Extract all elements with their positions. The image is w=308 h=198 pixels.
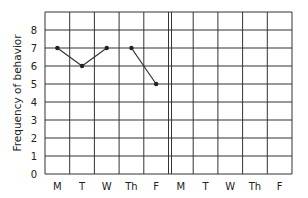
- x-tick-label: T: [78, 181, 86, 192]
- y-tick-label: 5: [31, 79, 37, 90]
- x-axis-ticks: MTWThFMTWThF: [53, 181, 283, 192]
- x-tick-label: M: [53, 181, 62, 192]
- y-tick-label: 7: [31, 43, 37, 54]
- x-tick-label: M: [177, 181, 186, 192]
- series-line: [57, 48, 106, 66]
- chart-grid: [45, 12, 292, 174]
- y-tick-label: 2: [31, 133, 37, 144]
- data-point: [80, 64, 84, 68]
- x-tick-label: Th: [124, 181, 137, 192]
- line-chart: 012345678 MTWThFMTWThF Frequency of beha…: [0, 0, 308, 198]
- x-tick-label: F: [277, 181, 283, 192]
- y-axis-ticks: 012345678: [31, 25, 37, 180]
- y-tick-label: 1: [31, 151, 37, 162]
- y-tick-label: 3: [31, 115, 37, 126]
- y-tick-label: 4: [31, 97, 37, 108]
- y-tick-label: 0: [31, 169, 37, 180]
- y-tick-label: 8: [31, 25, 37, 36]
- y-tick-label: 6: [31, 61, 37, 72]
- data-point: [154, 82, 158, 86]
- data-point: [105, 46, 109, 50]
- data-point: [129, 46, 133, 50]
- x-tick-label: Th: [248, 181, 261, 192]
- x-tick-label: W: [102, 181, 112, 192]
- data-point: [55, 46, 59, 50]
- y-axis-label: Frequency of behavior: [11, 34, 23, 152]
- x-tick-label: T: [201, 181, 209, 192]
- x-tick-label: W: [225, 181, 235, 192]
- x-tick-label: F: [153, 181, 159, 192]
